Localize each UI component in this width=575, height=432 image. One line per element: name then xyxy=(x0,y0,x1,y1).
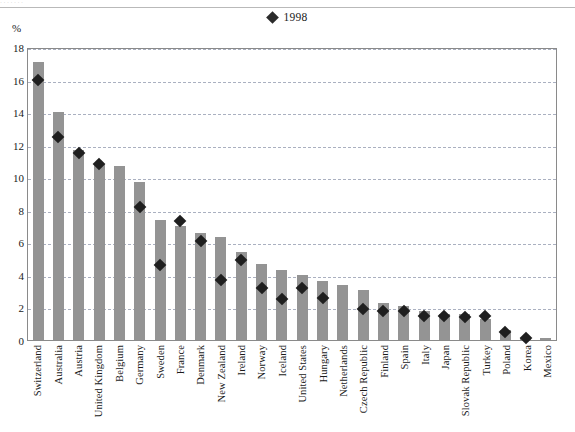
bar-slot xyxy=(48,49,68,340)
x-label-slot: Poland xyxy=(496,343,516,431)
bar-series-container xyxy=(28,49,556,340)
bar-slot xyxy=(211,49,231,340)
x-label-slot: United States xyxy=(292,343,312,431)
bar-slot xyxy=(89,49,109,340)
x-axis-tick-label: Iceland xyxy=(276,345,287,377)
x-label-slot: Slovak Republic xyxy=(455,343,475,431)
x-label-slot: Switzerland xyxy=(27,343,47,431)
x-axis-tick-label: Australia xyxy=(52,345,63,384)
bar xyxy=(195,233,206,340)
x-axis-tick-label: Czech Republic xyxy=(358,345,369,413)
x-axis-tick-label: Hungary xyxy=(317,345,328,382)
diamond-marker-icon xyxy=(266,11,279,24)
bar-slot xyxy=(455,49,475,340)
x-label-slot: Czech Republic xyxy=(353,343,373,431)
y-axis-tick-label: 16 xyxy=(2,75,24,87)
chart-page: · · · · · · · 1998 % 024681012141618 Swi… xyxy=(0,0,575,432)
bar-slot xyxy=(130,49,150,340)
bar-slot xyxy=(231,49,251,340)
bar-slot xyxy=(333,49,353,340)
scan-top-rule xyxy=(0,7,575,8)
x-label-slot: Ireland xyxy=(231,343,251,431)
bar-slot xyxy=(353,49,373,340)
x-label-slot: Norway xyxy=(251,343,271,431)
x-axis-tick-label: Italy xyxy=(419,345,430,365)
bar-slot xyxy=(495,49,515,340)
x-axis-tick-label: France xyxy=(174,345,185,374)
bar-slot xyxy=(251,49,271,340)
bar-slot xyxy=(69,49,89,340)
x-label-slot: Australia xyxy=(47,343,67,431)
y-axis-tick-label: 0 xyxy=(2,335,24,347)
x-label-slot: Netherlands xyxy=(333,343,353,431)
x-axis-tick-label: Spain xyxy=(399,345,410,369)
bar-slot xyxy=(109,49,129,340)
x-axis-tick-label: Slovak Republic xyxy=(460,345,471,416)
bar xyxy=(256,264,267,341)
x-label-slot: Japan xyxy=(435,343,455,431)
bar xyxy=(114,166,125,340)
bar-slot xyxy=(191,49,211,340)
bar xyxy=(175,226,186,340)
x-axis-tick-label: Netherlands xyxy=(338,345,349,397)
x-label-slot: Germany xyxy=(129,343,149,431)
x-axis-tick-label: Switzerland xyxy=(32,345,43,396)
x-axis-tick-label: Belgium xyxy=(113,345,124,382)
legend-label-1998: 1998 xyxy=(284,11,308,23)
plot-area xyxy=(27,48,557,341)
x-label-slot: Finland xyxy=(374,343,394,431)
x-axis-labels: SwitzerlandAustraliaAustriaUnited Kingdo… xyxy=(27,343,557,431)
bar-slot xyxy=(434,49,454,340)
y-axis-tick-label: 10 xyxy=(2,172,24,184)
x-axis-tick-label: Sweden xyxy=(154,345,165,379)
bar xyxy=(540,338,551,340)
x-label-slot: Korea xyxy=(516,343,536,431)
x-label-slot: Belgium xyxy=(109,343,129,431)
x-axis-tick-label: Mexico xyxy=(541,345,552,378)
x-axis-tick-label: Korea xyxy=(521,345,532,371)
x-label-slot: Denmark xyxy=(190,343,210,431)
x-label-slot: Hungary xyxy=(312,343,332,431)
bar-slot xyxy=(28,49,48,340)
x-label-slot: Mexico xyxy=(537,343,557,431)
bar-slot xyxy=(373,49,393,340)
bar xyxy=(53,112,64,340)
x-axis-tick-label: Norway xyxy=(256,345,267,379)
y-axis-tick-label: 8 xyxy=(2,205,24,217)
x-label-slot: Spain xyxy=(394,343,414,431)
x-axis-tick-label: United Kingdom xyxy=(93,345,104,417)
bar-slot xyxy=(170,49,190,340)
bar-slot xyxy=(516,49,536,340)
x-label-slot: Sweden xyxy=(149,343,169,431)
x-label-slot: Italy xyxy=(414,343,434,431)
bar xyxy=(73,150,84,340)
scan-artifact-text: · · · · · · · xyxy=(0,0,23,7)
y-axis-tick-label: 18 xyxy=(2,42,24,54)
x-label-slot: New Zealand xyxy=(211,343,231,431)
x-axis-tick-label: Germany xyxy=(134,345,145,385)
x-label-slot: Austria xyxy=(68,343,88,431)
chart-legend: 1998 xyxy=(0,11,575,23)
bar xyxy=(215,237,226,340)
bar-slot xyxy=(150,49,170,340)
bar-slot xyxy=(475,49,495,340)
bar-slot xyxy=(292,49,312,340)
bar-slot xyxy=(394,49,414,340)
x-label-slot: United Kingdom xyxy=(88,343,108,431)
bar-slot xyxy=(414,49,434,340)
x-axis-tick-label: Denmark xyxy=(195,345,206,385)
y-axis-tick-label: 14 xyxy=(2,107,24,119)
x-axis-tick-label: New Zealand xyxy=(215,345,226,402)
bar-slot xyxy=(312,49,332,340)
x-axis-tick-label: Ireland xyxy=(236,345,247,375)
y-axis-tick-label: 2 xyxy=(2,302,24,314)
bar-slot xyxy=(272,49,292,340)
x-label-slot: Turkey xyxy=(476,343,496,431)
x-label-slot: Iceland xyxy=(272,343,292,431)
x-axis-tick-label: Japan xyxy=(440,345,451,369)
y-axis-unit-label: % xyxy=(12,22,21,34)
x-axis-tick-label: United States xyxy=(297,345,308,403)
y-axis-tick-label: 4 xyxy=(2,270,24,282)
bar xyxy=(94,164,105,340)
y-axis-tick-label: 6 xyxy=(2,237,24,249)
